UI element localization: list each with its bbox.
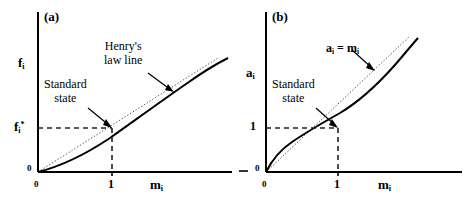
panel-a-standard-state-annotation: Standard state (44, 78, 87, 104)
panel-a-x-axis-label-text: m (150, 177, 161, 192)
panel-b-identity-annotation: ai = mi (326, 42, 359, 55)
panel-a-origin-y-label: 0 (27, 164, 32, 173)
panel-a-x-axis-label: mi (150, 178, 163, 193)
panel-b-origin-y-label: 0 (255, 164, 260, 173)
panel-a-henrys-law-line2: law line (104, 54, 142, 66)
panel-a-fugacity-curve (38, 58, 228, 172)
panel-b-xtick-label: 1 (334, 178, 340, 190)
panel-a-ytick-standard: fi* (14, 120, 25, 135)
panel-b-x-axis-label-text: m (378, 177, 389, 192)
panel-b-activity-curve (266, 38, 418, 172)
panel-b-origin-x-label: 0 (262, 180, 267, 189)
panel-a-henrys-law-annotation: Henry's law line (104, 40, 142, 66)
panel-b-identity-m-sub: i (357, 47, 359, 56)
panel-a-henrys-law-line1: Henry's (104, 40, 142, 52)
panel-b-y-axis-label-sub: i (253, 72, 255, 81)
figure-root: (a) fi fi* 0 0 1 mi Henry's law line Sta… (0, 0, 476, 202)
panel-b-tag: (b) (272, 10, 288, 23)
panel-b-x-axis-label-sub: i (389, 184, 391, 193)
panel-a-y-axis-label: fi (18, 56, 25, 71)
panel-a-y-axis-label-sub: i (22, 62, 24, 71)
panel-b-ytick-label: 1 (250, 120, 256, 132)
panel-a-origin-x-label: 0 (34, 180, 39, 189)
panel-b-x-axis-label: mi (378, 178, 391, 193)
panel-a-henrys-law-line (38, 58, 218, 172)
panel-b-identity-m: m (347, 41, 357, 55)
panel-a-standard-state-arrow-head (103, 119, 112, 128)
panel-b-identity-equals: = (334, 41, 347, 55)
panel-a-standard-state-line1: Standard (44, 78, 87, 90)
panel-a-xtick-label: 1 (108, 178, 114, 190)
panel-b-standard-state-annotation: Standard state (272, 78, 315, 104)
panel-a-tag: (a) (44, 10, 59, 23)
panel-a-x-axis-label-sub: i (161, 184, 163, 193)
panel-b-standard-state-line2: state (272, 92, 315, 104)
panel-b-standard-state-line1: Standard (272, 78, 315, 90)
panel-b-y-axis-label: ai (246, 66, 255, 81)
panel-a-standard-state-line2: state (44, 92, 87, 104)
panel-a-ytick-sup: * (21, 120, 25, 129)
